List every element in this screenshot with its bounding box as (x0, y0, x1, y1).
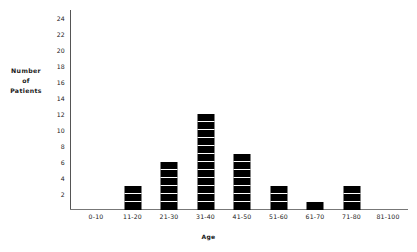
bar-segment (234, 162, 251, 170)
bar-segment (234, 178, 251, 186)
bar-segment (197, 130, 214, 138)
plot-area: 24681012141618202224 0-1011-2021-3031-40… (70, 10, 408, 210)
bar-slot (298, 10, 332, 210)
bar-slot (152, 10, 186, 210)
bar[interactable] (270, 186, 287, 210)
bar-segment (307, 202, 324, 210)
bar-series (70, 10, 408, 210)
bar-segment (161, 178, 178, 186)
x-axis-tick-label: 71-80 (342, 213, 361, 220)
x-axis-tick-label: 61-70 (306, 213, 325, 220)
bar[interactable] (161, 162, 178, 210)
y-axis-tick-label: 12 (57, 111, 65, 118)
y-axis-tick-label: 24 (57, 15, 65, 22)
bar-segment (270, 202, 287, 210)
y-axis-title-line-1: Number (2, 66, 50, 76)
bar-segment (124, 194, 141, 202)
x-axis-tick-label: 0-10 (89, 213, 104, 220)
bar-segment (234, 170, 251, 178)
bar-slot (335, 10, 369, 210)
bar-slot (262, 10, 296, 210)
bar-slot (79, 10, 113, 210)
y-axis-tick-label: 2 (61, 191, 65, 198)
bar-segment (234, 194, 251, 202)
bar-segment (161, 162, 178, 170)
y-axis-tick-label: 10 (57, 127, 65, 134)
bar-segment (197, 170, 214, 178)
bar-segment (343, 186, 360, 194)
bar-segment (197, 154, 214, 162)
bar-segment (197, 162, 214, 170)
y-axis-tick-label: 22 (57, 31, 65, 38)
x-axis-tick-label: 81-100 (376, 213, 399, 220)
bar-segment (197, 178, 214, 186)
bar-segment (197, 114, 214, 122)
x-axis-tick-label: 21-30 (160, 213, 179, 220)
bar-segment (124, 202, 141, 210)
bar-segment (197, 122, 214, 130)
bar-segment (161, 202, 178, 210)
bar[interactable] (343, 186, 360, 210)
bar[interactable] (124, 186, 141, 210)
bar-segment (197, 194, 214, 202)
y-axis-tick-label: 14 (57, 95, 65, 102)
bar-segment (234, 202, 251, 210)
bar-slot (189, 10, 223, 210)
bar-segment (197, 202, 214, 210)
bar-segment (343, 194, 360, 202)
bar-segment (197, 138, 214, 146)
bar-segment (234, 154, 251, 162)
bar[interactable] (234, 154, 251, 210)
bar-segment (124, 186, 141, 194)
bar-segment (234, 186, 251, 194)
bar-slot (371, 10, 405, 210)
bar-segment (161, 194, 178, 202)
x-axis-tick-label: 31-40 (196, 213, 215, 220)
bar-segment (161, 186, 178, 194)
y-axis-tick-label: 6 (61, 159, 65, 166)
y-axis-title: Number of Patients (2, 66, 50, 96)
y-axis-tick-label: 8 (61, 143, 65, 150)
x-axis-title: Age (0, 233, 417, 240)
y-axis-title-line-3: Patients (2, 86, 50, 96)
y-axis-tick-label: 20 (57, 47, 65, 54)
bar-segment (270, 194, 287, 202)
bar[interactable] (307, 202, 324, 210)
bar-segment (197, 186, 214, 194)
x-axis-tick-label: 41-50 (233, 213, 252, 220)
x-axis-tick-label: 51-60 (269, 213, 288, 220)
bar-segment (197, 146, 214, 154)
y-axis-tick-label: 18 (57, 63, 65, 70)
y-axis-title-line-2: of (2, 76, 50, 86)
y-axis-tick-label: 4 (61, 175, 65, 182)
y-axis-tick-label: 16 (57, 79, 65, 86)
bar-segment (270, 186, 287, 194)
x-axis-tick-label: 11-20 (123, 213, 142, 220)
bar[interactable] (197, 114, 214, 210)
bar-segment (161, 170, 178, 178)
bar-slot (116, 10, 150, 210)
bar-slot (225, 10, 259, 210)
bar-segment (343, 202, 360, 210)
chart-container: Number of Patients 24681012141618202224 … (0, 0, 417, 252)
